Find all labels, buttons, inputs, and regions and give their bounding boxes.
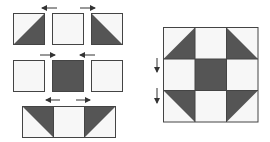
half-square-triangle (92, 14, 123, 45)
block-center-square (195, 59, 227, 91)
half-square-triangle (14, 14, 45, 45)
plain-square (92, 61, 123, 92)
plain-square (54, 107, 85, 138)
middle-row (14, 55, 123, 92)
quilt-diagram (0, 0, 270, 142)
finished-block (157, 28, 258, 123)
plain-square (53, 14, 84, 45)
bottom-row (23, 100, 116, 138)
top-row (14, 8, 123, 45)
half-square-triangle (85, 107, 116, 138)
dark-square (53, 61, 84, 92)
plain-square (14, 61, 45, 92)
half-square-triangle (23, 107, 54, 138)
